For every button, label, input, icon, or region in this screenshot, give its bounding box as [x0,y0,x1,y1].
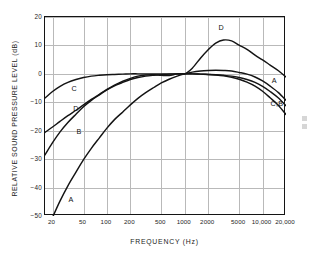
y-tick-label: 0 [38,69,42,76]
curve-label-a: A [68,195,73,204]
x-tick-label: 200 [124,218,135,225]
y-tick-label: −30 [31,155,42,162]
y-tick-label: 10 [34,41,42,48]
x-axis-title: FREQUENCY (Hz) [44,238,285,245]
scan-artifact [302,116,307,129]
curve-a [45,70,286,235]
curve-d [45,40,286,133]
y-tick-label: 20 [34,13,42,20]
curve-label-b: B [77,127,82,136]
plot-area [44,16,285,215]
y-axis-title: RELATIVE SOUND PRESSURE LEVEL (dB) [11,34,18,204]
y-tick-label: −10 [31,98,42,105]
curve-label-a: A [272,76,277,85]
x-tick-label: 1000 [177,218,191,225]
curve-lines [45,17,286,216]
curve-c [45,74,286,106]
x-axis-tick-labels: 205010020050010002000500010,00020,000 [44,218,285,232]
curve-label-cb: C,B [270,99,283,108]
y-tick-label: −50 [31,212,42,219]
x-tick-label: 10,000 [252,218,272,225]
y-axis-tick-labels: 20100−10−20−30−40−50 [18,0,42,266]
y-tick-label: −20 [31,126,42,133]
curve-label-d: D [73,104,79,113]
curve-label-c: C [71,84,77,93]
curve-label-d: D [219,23,225,32]
curve-b [45,74,286,155]
x-tick-label: 2000 [200,218,214,225]
weighting-curves-figure: 20100−10−20−30−40−50 RELATIVE SOUND PRES… [0,0,315,266]
x-tick-label: 20 [48,218,55,225]
x-tick-label: 500 [155,218,166,225]
y-tick-label: −40 [31,183,42,190]
x-tick-label: 20,000 [275,218,295,225]
x-tick-label: 5000 [231,218,245,225]
x-tick-label: 50 [79,218,86,225]
x-tick-label: 100 [101,218,112,225]
